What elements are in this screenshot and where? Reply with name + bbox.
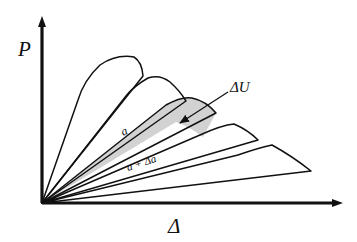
crack-length-a-plus-delta-a-label: a + Δa — [125, 152, 158, 173]
y-axis-label: P — [17, 37, 31, 61]
crack-length-a-label: a — [119, 124, 130, 139]
fracture-energy-diagram: P Δ ΔU a a + Δa — [0, 0, 357, 242]
diagram-canvas: P Δ ΔU a a + Δa — [0, 0, 357, 242]
delta-U-shaded-region — [42, 98, 216, 203]
delta-U-label: ΔU — [229, 79, 251, 95]
x-axis-label: Δ — [167, 214, 180, 238]
